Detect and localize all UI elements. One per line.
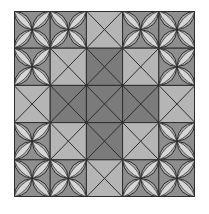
quilt-pattern-board: [14, 11, 195, 197]
light-x-tile-1-1: [50, 48, 86, 85]
circle-petal-tile-3-4: [159, 123, 195, 160]
dark-x-tile-3-2: [86, 123, 122, 160]
dark-x-tile-2-2: [86, 85, 122, 122]
dark-x-tile-2-3: [123, 85, 159, 122]
circle-petal-tile-0-3: [123, 11, 159, 48]
light-x-tile-2-0: [14, 85, 50, 122]
light-x-tile-1-3: [123, 48, 159, 85]
dark-x-tile-1-2: [86, 48, 122, 85]
circle-petal-tile-4-0: [14, 160, 50, 197]
light-x-tile-3-1: [50, 123, 86, 160]
light-x-tile-2-4: [159, 85, 195, 122]
quilt-svg: [14, 11, 195, 197]
circle-petal-tile-0-0: [14, 11, 50, 48]
circle-petal-tile-1-0: [14, 48, 50, 85]
dark-x-tile-2-1: [50, 85, 86, 122]
light-x-tile-0-2: [86, 11, 122, 48]
light-x-tile-3-3: [123, 123, 159, 160]
circle-petal-tile-0-4: [159, 11, 195, 48]
circle-petal-tile-1-4: [159, 48, 195, 85]
circle-petal-tile-4-4: [159, 160, 195, 197]
circle-petal-tile-4-3: [123, 160, 159, 197]
circle-petal-tile-4-1: [50, 160, 86, 197]
circle-petal-tile-0-1: [50, 11, 86, 48]
circle-petal-tile-3-0: [14, 123, 50, 160]
light-x-tile-4-2: [86, 160, 122, 197]
